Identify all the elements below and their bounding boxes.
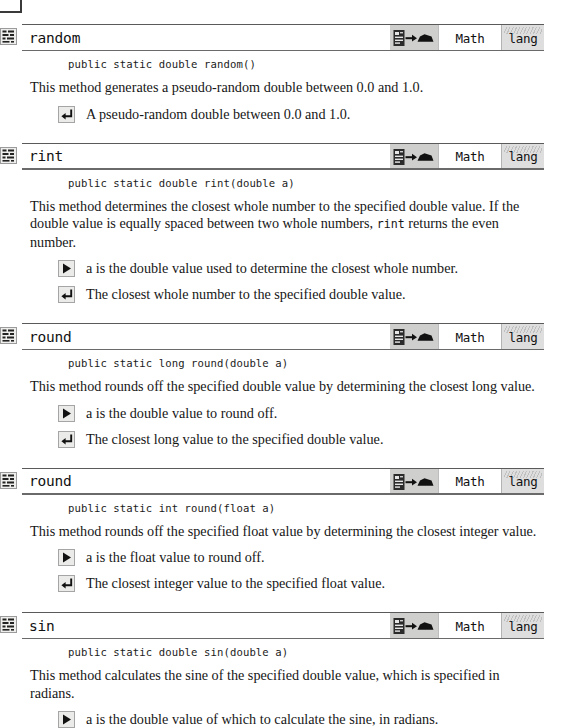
header-right-group: Mathlang (390, 144, 544, 170)
method-signature-icon (390, 324, 438, 350)
parameter-note-row: a is the double value to round off. (58, 405, 544, 422)
entry-spacer (0, 303, 568, 323)
entry-spacer (0, 592, 568, 612)
method-signature: public static long round(double a) (68, 357, 568, 369)
method-name: rint (22, 144, 390, 170)
class-grid-icon (0, 472, 17, 489)
class-grid-icon (0, 28, 17, 45)
owner-class-label: Math (438, 324, 501, 350)
method-signature: public static double rint(double a) (68, 177, 568, 189)
method-name: round (22, 469, 390, 495)
return-note-text: A pseudo-random double between 0.0 and 1… (75, 106, 350, 123)
method-header: roundMathlang (22, 323, 544, 350)
description-code-span: rint (377, 217, 405, 231)
method-entry: roundMathlangpublic static long round(do… (0, 303, 568, 448)
package-label-text: lang (509, 474, 538, 489)
package-label: lang (501, 144, 544, 170)
method-signature-icon (390, 613, 438, 639)
entry-spacer (0, 0, 568, 24)
return-note-text: The closest integer value to the specifi… (75, 575, 385, 592)
package-label-text: lang (509, 330, 538, 345)
return-note-text: The closest long value to the specified … (75, 431, 383, 448)
method-signature: public static double random() (68, 58, 568, 70)
method-header: randomMathlang (22, 24, 544, 51)
return-note-row: The closest whole number to the specifie… (58, 286, 544, 303)
method-signature-icon (390, 144, 438, 170)
entry-spacer (0, 123, 568, 143)
method-name: random (22, 25, 390, 51)
owner-class-label: Math (438, 469, 501, 495)
package-label-text: lang (509, 31, 538, 46)
parameter-triangle-icon (58, 711, 75, 728)
method-description: This method rounds off the specified dou… (30, 378, 544, 396)
package-label: lang (501, 25, 544, 51)
entry-spacer (0, 448, 568, 468)
method-signature: public static double sin(double a) (68, 646, 568, 658)
parameter-triangle-icon (58, 260, 75, 277)
package-label-text: lang (509, 149, 538, 164)
method-entry: roundMathlangpublic static int round(flo… (0, 448, 568, 593)
owner-class-label: Math (438, 25, 501, 51)
header-right-group: Mathlang (390, 469, 544, 495)
method-name: round (22, 324, 390, 350)
parameter-note-row: a is the float value to round off. (58, 549, 544, 566)
package-label: lang (501, 613, 544, 639)
return-note-row: The closest integer value to the specifi… (58, 575, 544, 592)
parameter-note-text: a is the float value to round off. (75, 549, 265, 566)
return-arrow-icon (58, 286, 75, 303)
parameter-note-row: a is the double value of which to calcul… (58, 711, 544, 728)
method-description: This method rounds off the specified flo… (30, 523, 544, 541)
method-entry: randomMathlangpublic static double rando… (0, 0, 568, 123)
api-reference-page: randomMathlangpublic static double rando… (0, 0, 568, 728)
parameter-note-text: a is the double value to round off. (75, 405, 277, 422)
return-arrow-icon (58, 575, 75, 592)
method-entry: rintMathlangpublic static double rint(do… (0, 123, 568, 304)
method-signature: public static int round(float a) (68, 502, 568, 514)
parameter-triangle-icon (58, 405, 75, 422)
method-header: roundMathlang (22, 468, 544, 495)
method-name: sin (22, 613, 390, 639)
method-signature-icon (390, 469, 438, 495)
parameter-note-row: a is the double value used to determine … (58, 260, 544, 277)
header-right-group: Mathlang (390, 613, 544, 639)
method-signature-icon (390, 25, 438, 51)
return-note-row: A pseudo-random double between 0.0 and 1… (58, 106, 544, 123)
method-header: rintMathlang (22, 143, 544, 170)
return-note-text: The closest whole number to the specifie… (75, 286, 406, 303)
return-arrow-icon (58, 106, 75, 123)
method-description: This method determines the closest whole… (30, 198, 544, 252)
package-label-text: lang (509, 619, 538, 634)
method-description: This method generates a pseudo-random do… (30, 79, 544, 97)
header-right-group: Mathlang (390, 25, 544, 51)
package-label: lang (501, 324, 544, 350)
method-entry: sinMathlangpublic static double sin(doub… (0, 592, 568, 728)
parameter-note-text: a is the double value used to determine … (75, 260, 458, 277)
owner-class-label: Math (438, 613, 501, 639)
parameter-triangle-icon (58, 549, 75, 566)
method-description: This method calculates the sine of the s… (30, 667, 544, 702)
class-grid-icon (0, 616, 17, 633)
class-grid-icon (0, 147, 17, 164)
method-header: sinMathlang (22, 612, 544, 639)
class-grid-icon (0, 327, 17, 344)
return-arrow-icon (58, 431, 75, 448)
owner-class-label: Math (438, 144, 501, 170)
header-right-group: Mathlang (390, 324, 544, 350)
parameter-note-text: a is the double value of which to calcul… (75, 711, 438, 728)
package-label: lang (501, 469, 544, 495)
return-note-row: The closest long value to the specified … (58, 431, 544, 448)
